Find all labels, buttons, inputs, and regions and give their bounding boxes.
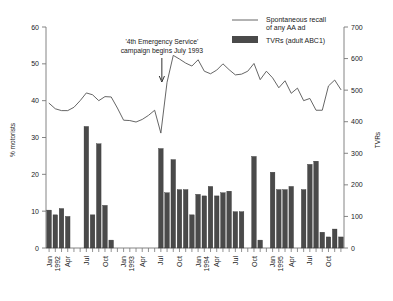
bar [84, 126, 89, 248]
bar [252, 156, 257, 248]
bar [320, 232, 325, 248]
annotation-line1: '4th Emergency Service' [125, 38, 198, 46]
bar [177, 190, 182, 248]
bar [289, 186, 294, 248]
x-tick-label: Jan [46, 256, 53, 267]
y-tick-label-left: 60 [31, 24, 39, 31]
bar [53, 215, 58, 248]
x-tick-label: Jul [83, 256, 90, 265]
y-axis-left: 0102030405060 [31, 24, 46, 252]
bar [159, 149, 164, 248]
y-tick-label-right: 0 [351, 245, 355, 252]
bar [239, 212, 244, 248]
bar [314, 161, 319, 248]
annotation-campaign: '4th Emergency Service' campaign begins … [121, 38, 204, 82]
legend-label-recall-line1: Spontaneous recall [266, 16, 326, 24]
bar [308, 164, 313, 248]
x-tick-label-year: 1993 [128, 256, 135, 272]
legend-label-tvrs: TVRs (adult ABC1) [266, 37, 325, 45]
y-tick-label-left: 10 [31, 208, 39, 215]
x-tick-label: Jan [195, 256, 202, 267]
bar [208, 186, 213, 248]
bar [258, 240, 263, 248]
bar [326, 237, 331, 248]
bar [90, 215, 95, 248]
y-axis-left-label: % motorists [9, 122, 16, 157]
x-tick-label: Apr [139, 255, 147, 267]
y-tick-label-left: 50 [31, 60, 39, 67]
bar [183, 190, 188, 248]
bar [171, 160, 176, 248]
legend: Spontaneous recall of any AA ad TVRs (ad… [232, 16, 326, 45]
x-tick-label: Jul [306, 256, 313, 265]
line-series-recall [49, 55, 341, 133]
bar [47, 210, 52, 248]
y-tick-label-left: 0 [35, 245, 39, 252]
chart-container: Spontaneous recall of any AA ad TVRs (ad… [0, 0, 393, 301]
bar [59, 209, 64, 248]
x-tick-label: Oct [102, 256, 109, 267]
x-tick-label: Oct [176, 256, 183, 267]
y-tick-label-right: 400 [351, 118, 363, 125]
y-tick-label-right: 500 [351, 87, 363, 94]
bar [301, 190, 306, 248]
bar [196, 194, 201, 248]
bar [190, 215, 195, 248]
recall-line [49, 55, 341, 133]
bar [202, 196, 207, 248]
x-tick-label-year: 1994 [203, 256, 210, 272]
bar-series-tvrs [47, 126, 343, 248]
y-tick-label-right: 700 [351, 24, 363, 31]
y-tick-label-right: 200 [351, 181, 363, 188]
bar [65, 216, 70, 248]
x-tick-label: Jul [232, 256, 239, 265]
x-tick-label: Oct [251, 256, 258, 267]
y-tick-label-right: 300 [351, 150, 363, 157]
legend-label-recall-line2: of any AA ad [266, 24, 305, 32]
bar [277, 190, 282, 248]
x-tick-label: Jan [269, 256, 276, 267]
y-tick-label-left: 40 [31, 97, 39, 104]
x-tick-label: Jan [120, 256, 127, 267]
bar [227, 191, 232, 248]
bar [221, 193, 226, 248]
x-tick-label: Apr [213, 255, 221, 267]
bar [165, 193, 170, 248]
x-tick-label: Jul [157, 256, 164, 265]
x-tick-label-year: 1992 [54, 256, 61, 272]
y-axis-right: 0100200300400500600700 [344, 24, 363, 252]
bar [339, 237, 344, 248]
y-axis-right-label: TVRs [374, 131, 381, 148]
bar [109, 240, 114, 248]
annotation-line2: campaign begins July 1993 [121, 47, 204, 55]
down-arrow-icon [159, 58, 164, 82]
combo-chart: Spontaneous recall of any AA ad TVRs (ad… [0, 0, 393, 301]
bar [332, 229, 337, 248]
bar [96, 144, 101, 248]
x-tick-label: Apr [64, 255, 72, 267]
bar [283, 190, 288, 248]
x-tick-label: Oct [325, 256, 332, 267]
y-tick-label-left: 30 [31, 134, 39, 141]
bar [103, 205, 108, 248]
y-tick-label-right: 100 [351, 213, 363, 220]
legend-bar-marker [232, 36, 258, 43]
bar [233, 212, 238, 248]
x-axis: Jan1992AprJulOctJan1993AprJulOctJan1994A… [46, 248, 344, 272]
x-tick-label-year: 1995 [277, 256, 284, 272]
y-tick-label-right: 600 [351, 55, 363, 62]
x-tick-label: Apr [288, 255, 296, 267]
bar [214, 196, 219, 248]
y-tick-label-left: 20 [31, 171, 39, 178]
bar [270, 172, 275, 248]
